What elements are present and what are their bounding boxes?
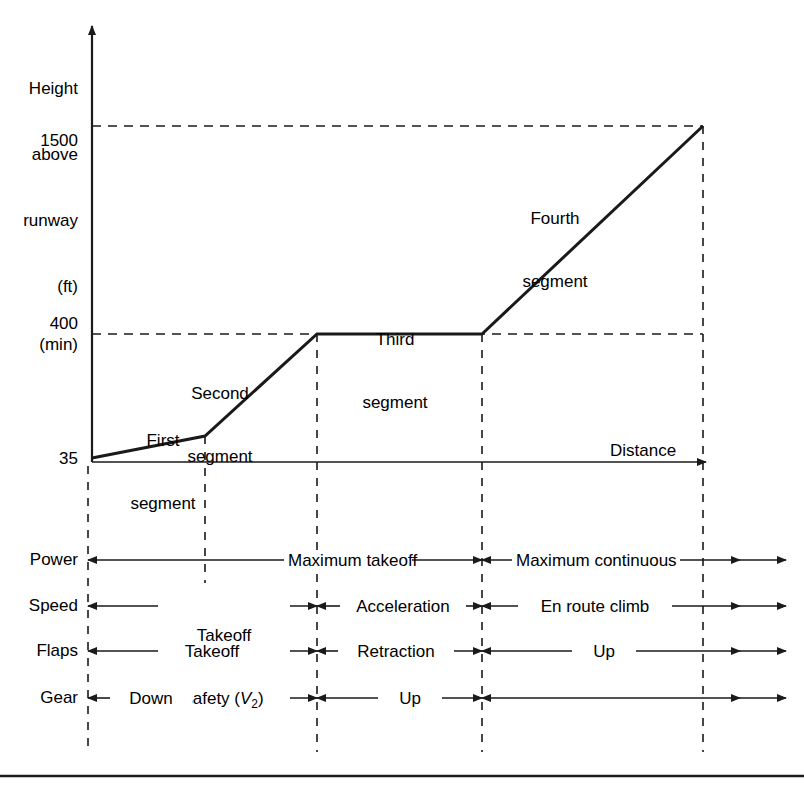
v2-symbol: V2 (240, 689, 258, 708)
segment-label-second: Second segment (160, 341, 280, 509)
segment-label-third-line-2: segment (340, 392, 450, 413)
y-axis-title-line-3: runway (0, 210, 78, 232)
row-label-power: Power (0, 550, 78, 570)
v2-prefix: safety ( (184, 689, 240, 708)
row-label-flaps: Flaps (0, 641, 78, 661)
y-tick-35: 35 (0, 448, 78, 469)
gear-span-label-up: Up (378, 688, 442, 709)
segment-label-second-line-2: segment (160, 446, 280, 467)
y-axis-title-line-1: Height (0, 78, 78, 100)
flaps-span-label-takeoff: Takeoff (166, 641, 258, 662)
x-axis-label: Distance (610, 440, 676, 461)
gear-span-label-down: Down (110, 688, 192, 709)
takeoff-flight-path-diagram: Height above runway (ft) 1500 400 (min) … (0, 0, 804, 791)
segment-label-fourth-line-2: segment (500, 271, 610, 292)
y-tick-400: 400 (0, 313, 78, 334)
v2-suffix: ) (258, 689, 264, 708)
row-label-speed: Speed (0, 596, 78, 616)
speed-span-label-acceleration: Acceleration (340, 596, 466, 617)
y-axis-title-line-4: (ft) (0, 276, 78, 298)
segment-label-fourth-line-1: Fourth (500, 208, 610, 229)
y-tick-400-note: (min) (0, 334, 78, 355)
segment-label-fourth: Fourth segment (500, 166, 610, 334)
power-span-label-maximum-continuous: Maximum continuous (512, 550, 680, 571)
speed-span-label-en-route-climb: En route climb (518, 596, 672, 617)
segment-label-second-line-1: Second (160, 383, 280, 404)
power-span-label-maximum-takeoff: Maximum takeoff (284, 550, 412, 571)
flaps-span-label-up: Up (572, 641, 636, 662)
segment-label-third-line-1: Third (340, 329, 450, 350)
speed-span-label-takeoff-safety: Takeoff safety (V2) (158, 583, 290, 757)
segment-label-third: Third segment (340, 287, 450, 455)
y-axis-title: Height above runway (ft) (0, 34, 78, 342)
y-tick-1500: 1500 (0, 130, 78, 151)
flaps-span-label-retraction: Retraction (338, 641, 454, 662)
row-label-gear: Gear (0, 688, 78, 708)
